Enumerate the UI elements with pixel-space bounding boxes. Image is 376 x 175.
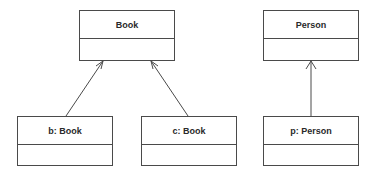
link-c-to-book-arrow-icon xyxy=(151,61,188,116)
link-p-to-person-arrow-icon xyxy=(306,61,316,116)
link-b-to-book-arrow-icon xyxy=(66,61,103,116)
links-layer xyxy=(0,0,376,175)
